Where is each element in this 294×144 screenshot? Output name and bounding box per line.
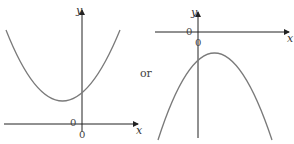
left-y-label: y [76,4,82,17]
right-graph [155,12,289,140]
left-x-label: x [136,124,142,137]
downward-parabola [158,53,272,140]
left-origin-below-label: 0 [79,129,85,140]
right-x-label: x [287,32,293,45]
right-y-label: y [191,6,197,19]
left-graph [4,10,138,132]
upward-parabola [6,30,120,101]
or-connector: or [140,67,152,80]
right-origin-below-label: 0 [195,37,201,48]
right-origin-label: 0 [186,26,192,37]
left-origin-label: 0 [70,117,76,128]
